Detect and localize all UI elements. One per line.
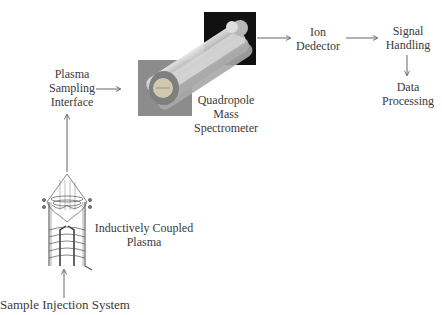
label-line: Dedector bbox=[293, 39, 343, 53]
label-line: Ion bbox=[293, 25, 343, 39]
label-line: Inductively Coupled bbox=[88, 221, 200, 235]
label-line: Mass bbox=[188, 107, 264, 121]
label-line: Interface bbox=[42, 95, 102, 109]
label-line: Processing bbox=[377, 94, 439, 108]
label-line: Plasma bbox=[42, 67, 102, 81]
label-line: Signal bbox=[380, 24, 436, 38]
quadrupole-mass-spectrometer-label: Quadropole Mass Spectrometer bbox=[188, 93, 264, 135]
label-line: Sampling bbox=[42, 81, 102, 95]
label-line: Spectrometer bbox=[188, 121, 264, 135]
data-processing-label: Data Processing bbox=[377, 80, 439, 108]
inductively-coupled-plasma-torch-image bbox=[42, 174, 92, 270]
sample-injection-system-label: Sample Injection System bbox=[0, 298, 130, 312]
label-line: Quadropole bbox=[188, 93, 264, 107]
plasma-sampling-interface-label: Plasma Sampling Interface bbox=[42, 67, 102, 109]
diagram-graphics bbox=[0, 0, 442, 315]
signal-handling-label: Signal Handling bbox=[380, 24, 436, 52]
ion-detector-label: Ion Dedector bbox=[293, 25, 343, 53]
label-line: Data bbox=[377, 80, 439, 94]
label-line: Handling bbox=[380, 38, 436, 52]
label-line: Plasma bbox=[88, 235, 200, 249]
flow-arrows bbox=[64, 38, 407, 298]
inductively-coupled-plasma-label: Inductively Coupled Plasma bbox=[88, 221, 200, 249]
